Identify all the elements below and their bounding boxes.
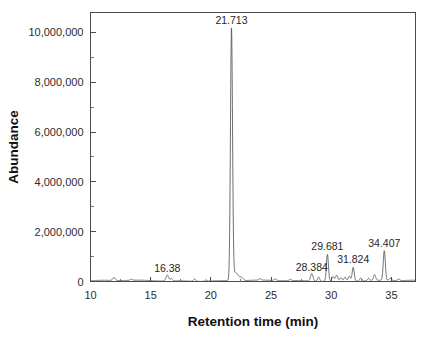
x-tick-label: 30 [325, 289, 337, 301]
x-tick-label: 35 [385, 289, 397, 301]
y-tick-label: 2,000,000 [35, 226, 84, 238]
peak-label: 31.824 [337, 253, 369, 265]
y-tick-label: 4,000,000 [35, 176, 84, 188]
y-tick-label: 6,000,000 [35, 126, 84, 138]
peak-label: 16.38 [154, 262, 180, 274]
chart-canvas: 02,000,0004,000,0006,000,0008,000,00010,… [0, 0, 435, 347]
y-axis-title: Abundance [6, 110, 21, 184]
peak-label: 29.681 [311, 240, 343, 252]
axis-ticks [91, 32, 392, 281]
chromatogram-trace [91, 28, 416, 282]
chromatogram-figure: 02,000,0004,000,0006,000,0008,000,00010,… [0, 0, 435, 347]
trace-line [91, 28, 416, 282]
plot-border [91, 13, 416, 282]
x-tick-label: 15 [145, 289, 157, 301]
peak-labels: 16.3821.71328.38429.68131.82434.407 [154, 14, 400, 275]
y-tick-label: 8,000,000 [35, 76, 84, 88]
y-tick-label: 10,000,000 [28, 26, 83, 38]
peak-label: 21.713 [215, 14, 247, 26]
x-tick-label: 10 [84, 289, 96, 301]
y-tick-label: 0 [77, 276, 83, 288]
x-tick-label: 25 [265, 289, 277, 301]
x-tick-label: 20 [205, 289, 217, 301]
x-axis-title: Retention time (min) [188, 314, 319, 329]
peak-label: 34.407 [368, 237, 400, 249]
peak-label: 28.384 [296, 261, 328, 273]
plot-frame [91, 13, 416, 282]
